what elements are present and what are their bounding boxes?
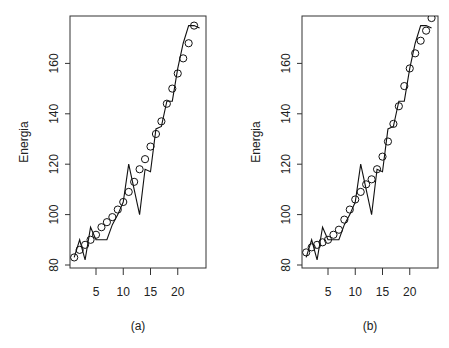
fitted-point xyxy=(335,226,342,233)
fitted-point xyxy=(125,188,132,195)
fitted-point xyxy=(141,156,148,163)
y-tick-label: 120 xyxy=(47,154,61,174)
x-tick-label: 5 xyxy=(325,285,332,299)
fitted-point xyxy=(379,153,386,160)
fitted-point xyxy=(131,178,138,185)
chart-panel-a: 801001201401605101520Energia(a) xyxy=(0,0,225,348)
y-tick-label: 160 xyxy=(47,53,61,73)
chart-a-svg: 801001201401605101520Energia(a) xyxy=(0,0,225,348)
y-tick-label: 140 xyxy=(279,103,293,123)
x-tick-label: 10 xyxy=(117,285,131,299)
fitted-point xyxy=(384,138,391,145)
y-tick-label: 100 xyxy=(279,204,293,224)
fitted-point xyxy=(417,37,424,44)
fitted-point xyxy=(423,27,430,34)
chart-panel-b: 801001201401605101520Energia(b) xyxy=(232,0,449,348)
y-axis-label: Energia xyxy=(17,121,31,163)
x-tick-label: 15 xyxy=(144,285,158,299)
x-tick-label: 10 xyxy=(349,285,363,299)
observed-line xyxy=(306,26,431,260)
y-tick-label: 80 xyxy=(47,258,61,272)
y-axis-label: Energia xyxy=(249,121,263,163)
y-tick-label: 100 xyxy=(47,204,61,224)
fitted-point xyxy=(185,40,192,47)
y-tick-label: 80 xyxy=(279,258,293,272)
x-tick-label: 15 xyxy=(376,285,390,299)
chart-b-svg: 801001201401605101520Energia(b) xyxy=(232,0,449,348)
y-tick-label: 140 xyxy=(47,103,61,123)
fitted-point xyxy=(368,176,375,183)
y-tick-label: 160 xyxy=(279,53,293,73)
fitted-point xyxy=(180,55,187,62)
fitted-point xyxy=(147,143,154,150)
panel-label: (a) xyxy=(131,319,146,333)
y-tick-label: 120 xyxy=(279,154,293,174)
fitted-point xyxy=(357,188,364,195)
x-tick-label: 20 xyxy=(171,285,185,299)
panel-label: (b) xyxy=(363,319,378,333)
x-tick-label: 5 xyxy=(93,285,100,299)
x-tick-label: 20 xyxy=(403,285,417,299)
fitted-point xyxy=(109,214,116,221)
fitted-point xyxy=(136,166,143,173)
